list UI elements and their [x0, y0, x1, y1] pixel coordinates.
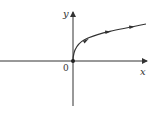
origin-label: 0 [63, 63, 69, 73]
function-graph: y x 0 [0, 0, 155, 113]
origin-point [71, 59, 75, 63]
y-axis-label: y [62, 8, 69, 19]
x-axis-label: x [140, 66, 146, 77]
